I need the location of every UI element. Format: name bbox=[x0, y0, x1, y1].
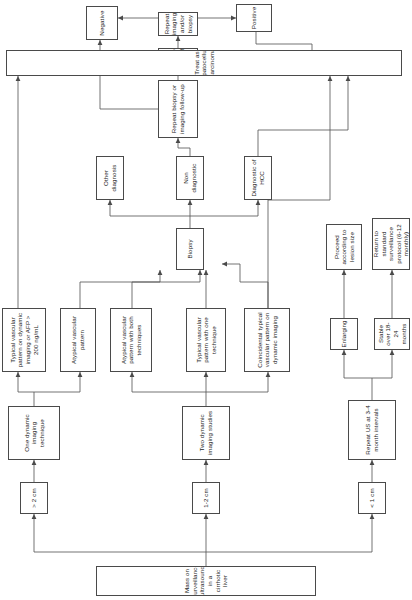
node-other-diagnosis: Other diagnosis bbox=[96, 156, 124, 200]
node-enlarging: Enlarging bbox=[330, 318, 358, 350]
node-root: Mass on surveillance ultrasound in a cir… bbox=[96, 566, 316, 596]
node-proceed-according-to-lesion-size: Proceed according to lesion size bbox=[326, 224, 362, 270]
node-one-dynamic-imaging-technique: One dynamic imaging technique bbox=[8, 406, 60, 460]
node-negative: Negative bbox=[86, 6, 118, 40]
node-repeat-imaging-and-or-biopsy: Repeat imaging and/or biopsy bbox=[158, 12, 198, 36]
node-size-lt-1cm: < 1 cm bbox=[358, 482, 386, 514]
node-two-dynamic-imaging-studies: Two dynamic imaging studies bbox=[182, 406, 230, 460]
flowchart-figure: Mass on surveillance ultrasound in a cir… bbox=[0, 0, 412, 600]
node-biopsy: Biopsy bbox=[176, 228, 204, 270]
node-size-gt-2cm: > 2 cm bbox=[20, 482, 48, 514]
node-typical-pattern-or-afp: Typical vascular pattern on dynamic imag… bbox=[2, 308, 46, 372]
node-typical-pattern-one-technique: Typical vascular pattern with one techni… bbox=[186, 308, 226, 372]
node-atypical-pattern-both-techniques: Atypical vascular pattern with both tech… bbox=[110, 308, 152, 372]
node-treat-as-hepatocellular-carcinoma: Treat as hepatocellular carcinoma bbox=[6, 50, 402, 76]
node-return-to-surveillance-protocol: Return to standard surveillance protocol… bbox=[372, 218, 410, 270]
node-positive: Positive bbox=[236, 4, 272, 32]
node-size-1-2cm: 1-2 cm bbox=[192, 482, 220, 514]
node-repeat-biopsy-or-imaging-followup: Repeat biopsy or imaging follow-up bbox=[158, 80, 198, 138]
node-coincidental-typical-pattern: Coincidental typical vascular pattern on… bbox=[244, 308, 290, 372]
node-diagnostic-of-hcc: Diagnostic of HCC bbox=[244, 156, 272, 200]
node-non-diagnostic: Non diagnostic bbox=[176, 156, 204, 200]
node-stable-18-24-months: Stable over 18-24 months bbox=[374, 318, 410, 350]
node-atypical-vascular-pattern: Atypical vascular pattern bbox=[60, 308, 96, 372]
flowchart-canvas: Mass on surveillance ultrasound in a cir… bbox=[0, 0, 412, 600]
node-repeat-us-3-4-month: Repeat US at 3-4 month intervals bbox=[348, 400, 396, 460]
